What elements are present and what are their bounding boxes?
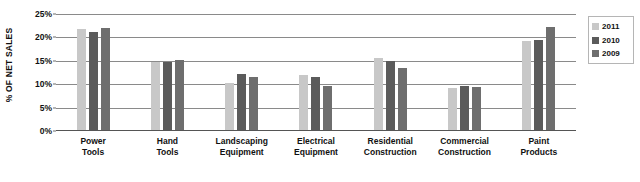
bar bbox=[311, 77, 320, 130]
x-axis-label-line: Tools bbox=[56, 147, 130, 158]
bar-chart: % OF NET SALES 0%5%10%15%20%25% PowerToo… bbox=[0, 0, 640, 182]
x-axis-label-line: Paint bbox=[502, 136, 576, 147]
x-axis-labels: PowerToolsHandToolsLandscapingEquipmentE… bbox=[56, 136, 576, 178]
legend-swatch-icon bbox=[592, 50, 599, 57]
bar-group bbox=[205, 14, 279, 131]
bar-group bbox=[427, 14, 501, 131]
bar bbox=[323, 86, 332, 130]
bar bbox=[522, 41, 531, 130]
bar-group bbox=[279, 14, 353, 131]
legend: 201120102009 bbox=[588, 16, 634, 64]
legend-label: 2011 bbox=[602, 22, 619, 31]
bar bbox=[374, 58, 383, 130]
x-axis-label-line: Equipment bbox=[205, 147, 279, 158]
x-axis-label-line: Electrical bbox=[279, 136, 353, 147]
bar bbox=[77, 29, 86, 130]
bar bbox=[163, 62, 172, 130]
x-axis-label-line: Landscaping bbox=[205, 136, 279, 147]
bar bbox=[237, 74, 246, 130]
x-axis-label-line: Tools bbox=[130, 147, 204, 158]
y-tick-label: 15% bbox=[35, 56, 52, 66]
bar bbox=[101, 28, 110, 130]
legend-item[interactable]: 2009 bbox=[592, 48, 630, 59]
x-axis-label: ResidentialConstruction bbox=[353, 136, 427, 178]
y-tick-label: 20% bbox=[35, 32, 52, 42]
bar bbox=[89, 32, 98, 130]
bar bbox=[546, 27, 555, 130]
x-axis-label-line: Construction bbox=[427, 147, 501, 158]
y-tick-label: 0% bbox=[40, 126, 52, 136]
plot-area bbox=[56, 14, 576, 131]
bar bbox=[151, 62, 160, 130]
y-tick-label: 10% bbox=[35, 79, 52, 89]
x-axis-label: LandscapingEquipment bbox=[205, 136, 279, 178]
x-axis-label-line: Commercial bbox=[427, 136, 501, 147]
y-tick-label: 5% bbox=[40, 103, 52, 113]
legend-label: 2010 bbox=[602, 36, 620, 45]
bar bbox=[299, 75, 308, 130]
legend-swatch-icon bbox=[592, 37, 599, 44]
x-axis-label-line: Products bbox=[502, 147, 576, 158]
bar bbox=[534, 40, 543, 130]
legend-label: 2009 bbox=[602, 49, 620, 58]
x-axis-label-line: Power bbox=[56, 136, 130, 147]
bar bbox=[225, 83, 234, 130]
bar bbox=[386, 61, 395, 130]
bar bbox=[460, 86, 469, 130]
legend-item[interactable]: 2011 bbox=[592, 21, 630, 32]
x-axis-label: ElectricalEquipment bbox=[279, 136, 353, 178]
bar bbox=[175, 60, 184, 130]
x-axis-label-line: Residential bbox=[353, 136, 427, 147]
bar-group bbox=[130, 14, 204, 131]
x-axis-baseline bbox=[56, 130, 576, 131]
y-tick-label: 25% bbox=[35, 9, 52, 19]
bar bbox=[448, 88, 457, 130]
x-axis-label: PowerTools bbox=[56, 136, 130, 178]
x-axis-label-line: Construction bbox=[353, 147, 427, 158]
x-axis-label: PaintProducts bbox=[502, 136, 576, 178]
legend-item[interactable]: 2010 bbox=[592, 35, 630, 46]
bar-group bbox=[502, 14, 576, 131]
y-axis-ticks: 0%5%10%15%20%25% bbox=[18, 14, 56, 131]
bar bbox=[249, 77, 258, 130]
x-axis-label-line: Equipment bbox=[279, 147, 353, 158]
bar-group bbox=[353, 14, 427, 131]
bar bbox=[472, 87, 481, 130]
bar-group bbox=[56, 14, 130, 131]
x-axis-label-line: Hand bbox=[130, 136, 204, 147]
legend-swatch-icon bbox=[592, 23, 599, 30]
x-axis-label: HandTools bbox=[130, 136, 204, 178]
bar-groups bbox=[56, 14, 576, 131]
x-axis-label: CommercialConstruction bbox=[427, 136, 501, 178]
y-axis-title-text: % OF NET SALES bbox=[4, 28, 14, 103]
y-axis-title: % OF NET SALES bbox=[0, 0, 18, 130]
bar bbox=[398, 68, 407, 130]
